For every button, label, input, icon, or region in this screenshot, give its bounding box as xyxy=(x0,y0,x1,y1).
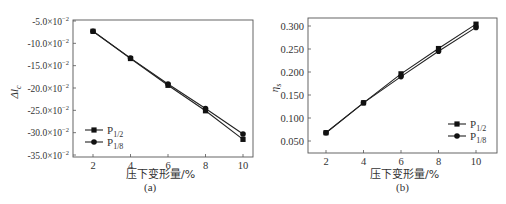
x-tick-label: 2 xyxy=(90,160,95,171)
circle-marker xyxy=(128,55,134,61)
y-tick-label: -15.0×10−2 xyxy=(27,59,69,71)
chart-a: -5.0×10−2-10.0×10−2-15.0×10−2-20.0×10−2-… xyxy=(8,15,253,172)
plot-frame xyxy=(308,18,497,153)
chart-b-panel-label: (b) xyxy=(396,181,409,193)
chart-a-xlabel: 压下变形量/% xyxy=(126,165,195,181)
square-marker xyxy=(240,137,245,142)
circle-marker xyxy=(436,49,442,55)
x-tick-label: 10 xyxy=(238,160,249,171)
circle-marker xyxy=(323,130,329,136)
circle-marker xyxy=(90,28,96,34)
y-axis-label: Δlc xyxy=(8,85,23,100)
x-tick-label: 4 xyxy=(361,156,367,167)
circle-marker xyxy=(398,74,404,80)
y-tick-label: -35.0×10−2 xyxy=(27,149,69,161)
x-tick-label: 8 xyxy=(203,160,208,171)
circle-marker xyxy=(203,106,209,112)
chart-b-xlabel: 压下变形量/% xyxy=(370,165,439,181)
y-tick-label: 0.300 xyxy=(280,21,304,32)
x-tick-label: 2 xyxy=(323,156,328,167)
chart-a-panel-label: (a) xyxy=(144,181,156,193)
y-tick-label: 0.100 xyxy=(280,113,304,124)
circle-marker xyxy=(165,81,171,87)
y-tick-label: 0.200 xyxy=(280,67,304,78)
chart-b: 0.3000.2500.2000.1500.1000.050246810ηsP1… xyxy=(268,18,497,167)
legend-square-marker xyxy=(454,121,459,126)
series-line-p1-8 xyxy=(326,27,476,132)
legend-circle-marker xyxy=(91,139,97,145)
y-tick-label: -30.0×10−2 xyxy=(27,126,69,138)
circle-marker xyxy=(240,131,246,137)
x-tick-label: 10 xyxy=(471,156,482,167)
y-tick-label: -20.0×10−2 xyxy=(27,82,69,94)
y-tick-label: 0.150 xyxy=(280,90,304,101)
legend-square-marker xyxy=(91,127,96,132)
legend-circle-marker xyxy=(454,133,460,139)
y-tick-label: 0.050 xyxy=(280,136,304,147)
plot-frame xyxy=(73,20,253,157)
y-tick-label: 0.250 xyxy=(280,44,304,55)
circle-marker xyxy=(473,25,479,31)
y-tick-label: -10.0×10−2 xyxy=(27,37,69,49)
y-tick-label: -5.0×10−2 xyxy=(32,15,69,27)
circle-marker xyxy=(361,100,367,106)
y-tick-label: -25.0×10−2 xyxy=(27,104,69,116)
